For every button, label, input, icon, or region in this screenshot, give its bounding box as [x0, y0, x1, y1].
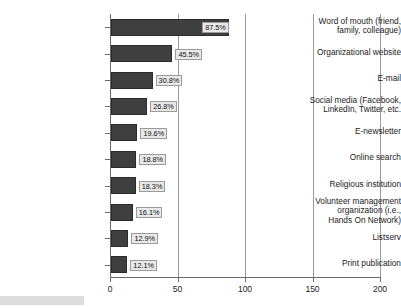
category-label: Listserv	[296, 233, 401, 243]
x-tick-mark	[313, 278, 314, 282]
x-tick-label: 0	[108, 284, 113, 294]
x-tick-label: 100	[238, 284, 252, 294]
bar	[111, 98, 147, 115]
y-tick-mark	[105, 265, 110, 266]
bar-value-label: 87.5%	[202, 22, 229, 33]
bar	[111, 256, 127, 273]
category-label: Volunteer management organization (i.e.,…	[296, 197, 401, 226]
x-tick-mark	[110, 278, 111, 282]
y-tick-mark	[105, 27, 110, 28]
y-tick-mark	[105, 80, 110, 81]
x-tick-mark	[245, 278, 246, 282]
bar-value-label: 19.6%	[140, 128, 167, 139]
bar-value-label: 12.9%	[131, 233, 158, 244]
bar	[111, 151, 136, 168]
y-axis-line	[110, 14, 111, 278]
bar-value-label: 30.8%	[156, 75, 183, 86]
x-tick-label: 200	[373, 284, 387, 294]
x-tick-mark	[380, 278, 381, 282]
bar-value-label: 26.8%	[150, 101, 177, 112]
x-tick-label: 50	[173, 284, 182, 294]
category-label: Print publication	[296, 259, 401, 269]
bar	[111, 230, 128, 247]
y-tick-mark	[105, 106, 110, 107]
bar-value-label: 12.1%	[130, 260, 157, 271]
bar	[111, 177, 136, 194]
bar-value-label: 16.1%	[136, 207, 163, 218]
bar-value-label: 18.3%	[139, 181, 166, 192]
bar	[111, 45, 172, 62]
bar	[111, 204, 133, 221]
category-label: Online search	[296, 153, 401, 163]
y-tick-mark	[105, 238, 110, 239]
category-label: Religious institution	[296, 180, 401, 190]
bar	[111, 72, 153, 89]
bar-value-label: 18.8%	[139, 154, 166, 165]
x-tick-mark	[178, 278, 179, 282]
y-tick-mark	[105, 54, 110, 55]
category-label: Social media (Facebook, LinkedIn, Twitte…	[296, 96, 401, 115]
y-tick-mark	[105, 186, 110, 187]
y-tick-mark	[105, 133, 110, 134]
bar-value-label: 45.5%	[175, 49, 202, 60]
category-label: E-newsletter	[296, 127, 401, 137]
bar	[111, 124, 137, 141]
bottom-band-artifact	[0, 296, 84, 305]
gridline	[245, 14, 246, 278]
category-label: Organizational website	[296, 48, 401, 58]
category-label: E-mail	[296, 74, 401, 84]
y-tick-mark	[105, 212, 110, 213]
bar-chart: 87.5%45.5%30.8%26.8%19.6%18.8%18.3%16.1%…	[0, 0, 401, 308]
y-tick-mark	[105, 159, 110, 160]
x-tick-label: 150	[305, 284, 319, 294]
category-label: Word of mouth (friend, family, colleague…	[296, 17, 401, 36]
